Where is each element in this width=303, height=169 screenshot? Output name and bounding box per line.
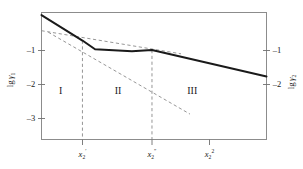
left-tick-label-3: –3 — [26, 113, 36, 123]
left-axis-title-sub: 1 — [10, 73, 16, 76]
x-tick-1-sub: 2 — [82, 154, 85, 160]
chart-figure: –1 –2 –3 lgγ1 –1 –2 lgγ2 x2′ — [0, 0, 303, 169]
x-tick-2-sub: 2 — [151, 154, 154, 160]
left-axis-title-prefix: lg — [5, 80, 15, 88]
left-tick-label-2: –2 — [26, 79, 36, 89]
left-tick-label-1: –1 — [26, 45, 36, 55]
right-axis-title-sub: 2 — [291, 75, 297, 78]
right-tick-label-1: –1 — [272, 45, 282, 55]
x-tick-1-sup: ′ — [85, 148, 86, 154]
x-tick-3-sup: 2 — [211, 148, 214, 154]
right-tick-label-2: –2 — [272, 79, 282, 89]
right-axis-title-prefix: lg — [286, 82, 296, 90]
region-label-III: III — [187, 85, 197, 96]
region-label-I: I — [59, 85, 62, 96]
x-tick-3-sub: 2 — [209, 154, 212, 160]
region-label-II: II — [115, 85, 122, 96]
x-tick-label-x2-prime: x2′ — [78, 148, 87, 160]
chart-background — [0, 0, 303, 169]
activity-coefficient-chart: –1 –2 –3 lgγ1 –1 –2 lgγ2 x2′ — [0, 0, 303, 169]
